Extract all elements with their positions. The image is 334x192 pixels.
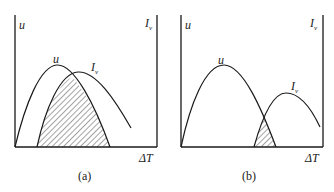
y-axis-left-label: u <box>19 19 25 31</box>
x-axis-label: ΔT <box>139 152 153 164</box>
iv-curve-label: Iv <box>91 61 98 76</box>
diagram-canvas <box>0 0 334 192</box>
label-subscript: v <box>314 24 317 32</box>
panel-b <box>181 15 323 150</box>
y-axis-right-label: Iv <box>310 17 317 32</box>
iv-curve-label: Iv <box>291 80 298 95</box>
u-curve-label: u <box>53 53 59 65</box>
label-subscript: v <box>95 68 98 76</box>
x-axis-label: ΔT <box>305 152 319 164</box>
caption-a: (a) <box>78 170 91 182</box>
caption-b: (b) <box>242 170 256 182</box>
y-axis-right-label: Iv <box>145 17 152 32</box>
label-subscript: v <box>295 87 298 95</box>
panel-a <box>15 15 157 150</box>
u-curve-label: u <box>218 54 224 66</box>
y-axis-left-label: u <box>185 19 191 31</box>
label-subscript: v <box>149 24 152 32</box>
